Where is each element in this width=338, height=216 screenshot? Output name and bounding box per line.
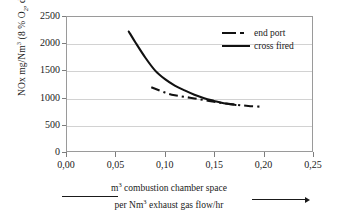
series-line-cross-fired — [129, 31, 236, 104]
x-axis-tick-mark — [115, 152, 116, 157]
x-axis-tick-label: 0,15 — [194, 160, 234, 170]
x-axis-direction-arrow-icon — [252, 196, 310, 203]
legend-swatch-dash-dot-icon — [222, 27, 252, 38]
x-axis-title-line1: m3 combustion chamber space — [111, 183, 227, 193]
x-axis-tick-label: 0,20 — [244, 160, 284, 170]
x-axis-tick-mark — [165, 152, 166, 157]
y-axis-tick-label: 1000 — [26, 93, 60, 103]
x-axis-tick-label: 0,05 — [95, 160, 135, 170]
x-axis-tick-label: 0,25 — [293, 160, 333, 170]
legend-swatch-solid-icon — [222, 40, 252, 51]
y-axis-tick-label: 500 — [26, 120, 60, 130]
x-axis-tick-label: 0,00 — [46, 160, 86, 170]
y-axis-tick-label: 2000 — [26, 38, 60, 48]
y-axis-tick-label: 0 — [26, 147, 60, 157]
legend-item-cross-fired: cross fired — [222, 39, 308, 52]
x-axis-tick-mark — [264, 152, 265, 157]
series-line-end-port — [151, 87, 263, 107]
chart-legend: end port cross fired — [222, 26, 308, 52]
x-axis-tick-mark — [66, 152, 67, 157]
legend-item-end-port: end port — [222, 26, 308, 39]
legend-label-cross-fired: cross fired — [252, 41, 294, 51]
x-axis-rule-left — [62, 196, 118, 197]
x-axis-tick-mark — [214, 152, 215, 157]
legend-label-end-port: end port — [252, 28, 285, 38]
y-axis-tick-label: 1500 — [26, 65, 60, 75]
x-axis-tick-label: 0,10 — [145, 160, 185, 170]
x-axis-tick-mark — [313, 152, 314, 157]
y-axis-tick-label: 2500 — [26, 11, 60, 21]
chart-figure: NOx mg/Nm3 (8 % O2, dry) 050010001500200… — [0, 0, 338, 216]
